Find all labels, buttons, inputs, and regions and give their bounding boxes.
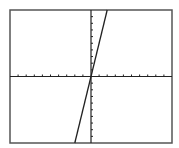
graph-window [0, 0, 179, 148]
